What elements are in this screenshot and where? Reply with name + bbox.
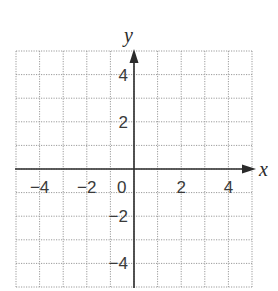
- origin-label: 0: [117, 178, 126, 197]
- coordinate-grid: x y −4−224 42−2−4 0: [0, 0, 278, 291]
- y-tick-label: 2: [119, 113, 128, 132]
- x-tick-label: 4: [224, 178, 233, 197]
- x-tick-label: 2: [176, 178, 185, 197]
- axes: [15, 49, 256, 288]
- x-axis-arrow-icon: [242, 165, 256, 174]
- y-tick-label: −4: [109, 254, 128, 273]
- x-tick-label: −2: [77, 178, 96, 197]
- x-tick-label: −4: [30, 178, 49, 197]
- y-tick-label: −2: [109, 207, 128, 226]
- y-axis-label: y: [122, 24, 133, 47]
- x-axis-label: x: [258, 158, 268, 180]
- x-tick-labels: −4−224: [30, 178, 233, 197]
- y-tick-label: 4: [119, 66, 128, 85]
